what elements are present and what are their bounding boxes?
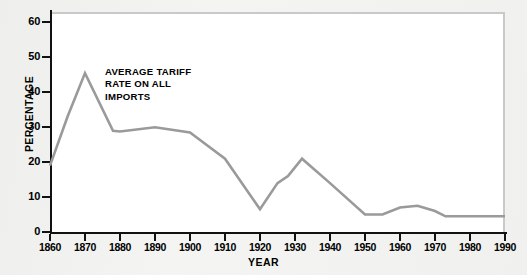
- y-axis-tick: [42, 196, 50, 198]
- y-axis-tick: [42, 91, 50, 93]
- y-axis-tick: [42, 126, 50, 128]
- x-axis-tick-label: 1880: [100, 242, 140, 253]
- x-axis-tick-label: 1910: [205, 242, 245, 253]
- x-axis-tick: [504, 234, 506, 241]
- y-axis-tick-label: 10: [14, 191, 40, 202]
- x-axis-title: YEAR: [0, 256, 527, 268]
- x-axis-tick: [294, 234, 296, 241]
- x-axis-tick-label: 1900: [170, 242, 210, 253]
- x-axis-tick-label: 1970: [415, 242, 455, 253]
- x-axis-tick: [119, 234, 121, 241]
- x-axis-tick-label: 1950: [345, 242, 385, 253]
- y-axis-tick: [42, 56, 50, 58]
- x-axis-tick: [154, 234, 156, 241]
- x-axis-tick: [329, 234, 331, 241]
- series-annotation-label: AVERAGE TARIFF RATE ON ALL IMPORTS: [105, 66, 191, 103]
- x-axis-tick-label: 1890: [135, 242, 175, 253]
- x-axis-tick-label: 1870: [65, 242, 105, 253]
- y-axis-tick: [42, 21, 50, 23]
- y-axis-line: [50, 10, 52, 234]
- x-axis-tick-label: 1980: [450, 242, 490, 253]
- x-axis-tick-label: 1930: [275, 242, 315, 253]
- x-axis-tick: [364, 234, 366, 241]
- chart-screenshot: 0102030405060 18601870188018901900191019…: [0, 0, 527, 275]
- y-axis-tick: [42, 161, 50, 163]
- x-axis-tick-label: 1990: [485, 242, 525, 253]
- x-axis-tick: [399, 234, 401, 241]
- plot-area: [50, 12, 505, 232]
- x-axis-tick-label: 1920: [240, 242, 280, 253]
- x-axis-tick: [434, 234, 436, 241]
- x-axis-tick-label: 1940: [310, 242, 350, 253]
- y-axis-tick: [42, 231, 50, 233]
- x-axis-tick: [189, 234, 191, 241]
- y-axis-tick-label: 60: [14, 16, 40, 27]
- y-axis-tick-label: 0: [14, 226, 40, 237]
- x-axis-tick: [49, 234, 51, 241]
- x-axis-tick: [259, 234, 261, 241]
- x-axis-tick-label: 1960: [380, 242, 420, 253]
- x-axis-tick: [469, 234, 471, 241]
- x-axis-tick: [84, 234, 86, 241]
- x-axis-tick-label: 1860: [30, 242, 70, 253]
- x-axis-tick: [224, 234, 226, 241]
- y-axis-title: PERCENTAGE: [23, 39, 35, 189]
